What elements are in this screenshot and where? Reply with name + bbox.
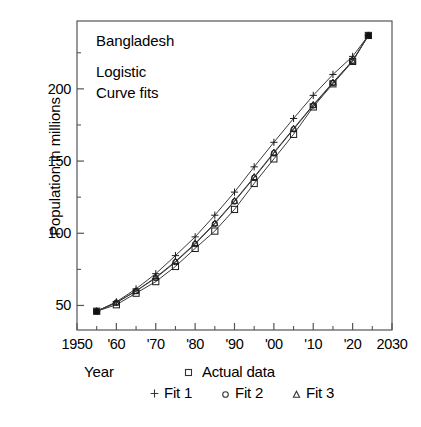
legend-marker-fit-3 <box>291 389 302 400</box>
legend-marker-fit-2 <box>220 389 231 400</box>
x-tick-label: '70 <box>147 336 165 352</box>
y-tick-label: 150 <box>31 153 71 169</box>
x-tick-label: '10 <box>304 336 322 352</box>
legend-label-fit-2: Fit 2 <box>235 384 263 401</box>
x-tick-label: 1950 <box>61 336 92 352</box>
legend-marker-fit-1 <box>149 388 160 399</box>
y-tick-label: 50 <box>31 297 71 313</box>
x-axis-ticks <box>77 323 392 330</box>
series-endpoint-marker <box>94 309 99 314</box>
x-tick-label: '00 <box>265 336 283 352</box>
legend-label-actual-data: Actual data <box>202 363 275 380</box>
x-tick-label: 2030 <box>376 336 407 352</box>
chart-subtitle-line1: Logistic <box>96 63 146 80</box>
series-endpoint-marker <box>366 33 371 38</box>
y-tick-label: 100 <box>31 225 71 241</box>
x-tick-label: '20 <box>344 336 362 352</box>
chart-title-annotation: Bangladesh <box>96 32 174 49</box>
y-axis-ticks <box>77 53 84 306</box>
x-tick-label: '90 <box>226 336 244 352</box>
x-axis-title: Year <box>84 363 114 380</box>
y-tick-label: 200 <box>31 81 71 97</box>
population-chart-figure: Population in millions Bangladesh Logist… <box>0 0 421 427</box>
legend-label-fit-1: Fit 1 <box>164 384 192 401</box>
x-tick-label: '60 <box>107 336 125 352</box>
chart-subtitle-line2: Curve fits <box>96 84 158 101</box>
legend-marker-actual-data <box>183 367 194 378</box>
x-tick-label: '80 <box>186 336 204 352</box>
legend-label-fit-3: Fit 3 <box>306 384 334 401</box>
